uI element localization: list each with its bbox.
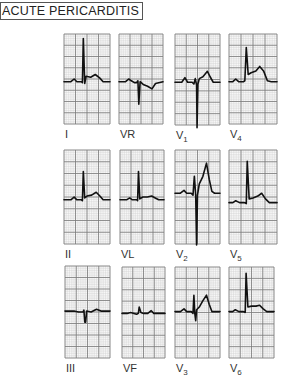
ecg-panel-v6 [229, 267, 274, 358]
ecg-panel-iii [65, 266, 110, 358]
lead-label-text: III [66, 362, 75, 374]
lead-label-subscript: 5 [237, 254, 241, 263]
lead-label-text: II [65, 248, 71, 260]
lead-label-subscript: 2 [183, 254, 187, 263]
ecg-grid [229, 267, 274, 358]
lead-label-subscript: 4 [237, 134, 241, 143]
ecg-panel-vr [119, 34, 163, 124]
ecg-panel-v5 [229, 150, 277, 244]
lead-label-v5: V5 [230, 248, 242, 265]
ecg-panel-vf [122, 267, 165, 358]
ecg-panel-v3 [175, 267, 220, 358]
ecg-panel-ii [64, 150, 110, 244]
ecg-panel-vl [120, 150, 164, 244]
ecg-grid [175, 150, 220, 244]
ecg-grid [119, 34, 163, 124]
lead-label-text: VL [121, 248, 134, 260]
ecg-grid [229, 150, 277, 244]
ecg-panel-v4 [229, 34, 277, 124]
lead-label-subscript: 3 [183, 368, 187, 377]
ecg-grid [175, 267, 220, 358]
diagram-title: ACUTE PERICARDITIS [0, 2, 143, 20]
ecg-grid [229, 34, 277, 124]
lead-label-v1: V1 [176, 129, 188, 146]
ecg-grid [64, 34, 110, 124]
ecg-panel-v1 [175, 34, 220, 125]
lead-label-ii: II [65, 248, 71, 260]
lead-label-i: I [65, 128, 68, 140]
lead-label-text: I [65, 128, 68, 140]
lead-label-subscript: 1 [183, 135, 187, 144]
lead-label-v6: V6 [230, 362, 242, 379]
lead-label-v3: V3 [176, 362, 188, 379]
ecg-grid [65, 266, 110, 358]
lead-label-v2: V2 [176, 248, 188, 265]
ecg-grid [64, 150, 110, 244]
ecg-panel-i [64, 34, 110, 124]
lead-label-text: VR [120, 128, 135, 140]
ecg-grid [175, 34, 220, 125]
lead-label-text: VF [123, 362, 137, 374]
lead-label-v4: V4 [230, 128, 242, 145]
lead-label-vf: VF [123, 362, 137, 374]
lead-label-iii: III [66, 362, 75, 374]
lead-label-vl: VL [121, 248, 134, 260]
ecg-panel-v2 [175, 150, 220, 244]
ecg-grid [120, 150, 164, 244]
lead-label-vr: VR [120, 128, 135, 140]
lead-label-subscript: 6 [237, 368, 241, 377]
ecg-grid [122, 267, 165, 358]
